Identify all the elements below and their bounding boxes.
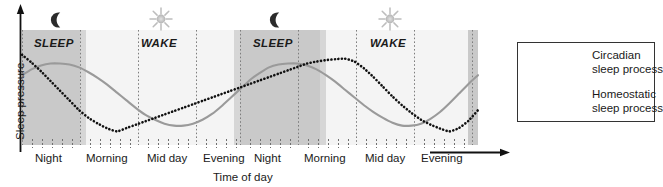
legend-label-homeostatic-line1: Homeostatic <box>592 88 656 100</box>
legend-label-homeostatic-line2: sleep process <box>592 102 663 114</box>
x-tick-label-1: Morning <box>86 152 128 164</box>
legend-label-circadian: Circadian sleep process <box>592 49 663 76</box>
legend-label-homeostatic: Homeostatic sleep process <box>592 88 663 115</box>
phase-label-wake-1: WAKE <box>141 37 177 49</box>
x-tick-label-2: Mid day <box>147 152 187 164</box>
phase-label-sleep-1: SLEEP <box>34 37 74 49</box>
x-tick-label-7: Evening <box>421 152 463 164</box>
moon-icon <box>270 12 279 27</box>
shaded-regions <box>22 30 478 145</box>
x-tick-label-0: Night <box>35 152 62 164</box>
legend-label-circadian-line1: Circadian <box>592 49 641 61</box>
phase-label-sleep-2: SLEEP <box>253 37 293 49</box>
sun-icon <box>150 8 172 30</box>
x-tick-label-5: Morning <box>304 152 346 164</box>
moon-icon <box>51 12 60 27</box>
x-tick-label-4: Night <box>254 152 281 164</box>
y-axis-title: Sleep pressure <box>14 63 26 140</box>
x-tick-label-6: Mid day <box>365 152 405 164</box>
sleep-band-2-edge-right <box>320 30 326 145</box>
x-axis-title: Time of day <box>213 171 273 183</box>
y-axis-arrowhead <box>17 4 24 14</box>
sun-icon <box>379 8 401 30</box>
phase-label-wake-2: WAKE <box>370 37 406 49</box>
legend-label-circadian-line2: sleep process <box>592 63 663 75</box>
x-axis-arrowhead <box>500 149 510 156</box>
x-tick-label-3: Evening <box>203 152 245 164</box>
